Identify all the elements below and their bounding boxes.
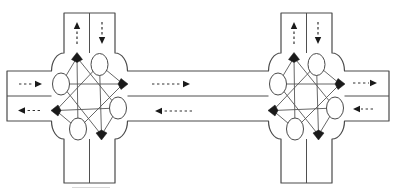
left-intersection-entry-northeast-node	[91, 54, 108, 76]
road-network-svg	[0, 0, 396, 190]
right-intersection-entry-northwest-node	[270, 73, 287, 95]
left-intersection-entry-southeast-node	[110, 97, 127, 119]
left-intersection-entry-northwest-node	[53, 73, 70, 95]
right-intersection-entry-southwest-node	[287, 118, 304, 140]
figure-page	[0, 0, 396, 190]
right-intersection-entry-northeast-node	[308, 54, 325, 76]
left-intersection-entry-southwest-node	[70, 118, 87, 140]
right-intersection-entry-southeast-node	[327, 97, 344, 119]
